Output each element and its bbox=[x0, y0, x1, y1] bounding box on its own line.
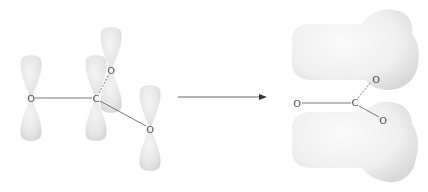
pi-cloud-bottom bbox=[292, 101, 418, 182]
atom-o-bottom-right: O bbox=[146, 124, 153, 135]
arrow-head-icon bbox=[259, 94, 267, 100]
left-panel-p-orbitals: O C O O bbox=[20, 27, 160, 171]
atom-o-top: O bbox=[372, 74, 379, 85]
reaction-arrow bbox=[178, 94, 267, 100]
atom-c-center: C bbox=[352, 97, 359, 108]
pi-cloud-top bbox=[292, 10, 419, 90]
bond-c-o-bottom-right bbox=[100, 101, 146, 126]
atom-o-left: O bbox=[293, 98, 300, 109]
bond-c-o-top bbox=[358, 82, 371, 98]
carbonate-pi-orbital-diagram: O C O O O C O O bbox=[0, 0, 428, 192]
atom-c-center: C bbox=[93, 93, 100, 104]
atom-o-top: O bbox=[107, 65, 114, 76]
atom-o-bottom-right: O bbox=[379, 115, 386, 126]
right-panel-delocalized-orbital: O C O O bbox=[292, 10, 419, 183]
atom-o-left: O bbox=[27, 93, 34, 104]
